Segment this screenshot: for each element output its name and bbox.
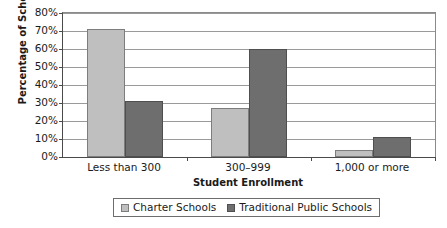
legend-swatch-icon bbox=[121, 204, 129, 212]
bar bbox=[87, 29, 125, 157]
y-axis-tick-label: 0% bbox=[22, 151, 58, 161]
y-axis-tick-label: 30% bbox=[22, 97, 58, 107]
chart-legend: Charter SchoolsTraditional Public School… bbox=[113, 198, 380, 217]
y-axis-tick bbox=[59, 31, 63, 32]
x-axis-tick-labels: Less than 300300–9991,000 or more bbox=[62, 161, 434, 177]
bar bbox=[125, 101, 163, 157]
x-axis-tick-label: 300–999 bbox=[225, 161, 270, 173]
gridline bbox=[63, 13, 435, 14]
plot-area bbox=[62, 12, 436, 158]
bar bbox=[373, 137, 411, 157]
y-axis-tick-labels: 0%10%20%30%40%50%60%70%80% bbox=[22, 0, 58, 170]
y-axis-tick bbox=[59, 13, 63, 14]
bar-chart: Percentage of Schools 0%10%20%30%40%50%6… bbox=[0, 0, 447, 228]
y-axis-tick-label: 10% bbox=[22, 133, 58, 143]
legend-item: Charter Schools bbox=[121, 202, 216, 213]
bar bbox=[211, 108, 249, 157]
legend-item: Traditional Public Schools bbox=[227, 202, 372, 213]
x-axis-title: Student Enrollment bbox=[62, 177, 434, 188]
y-axis-tick bbox=[59, 85, 63, 86]
x-axis-tick bbox=[435, 157, 436, 161]
y-axis-tick-label: 50% bbox=[22, 61, 58, 71]
y-axis-tick-label: 80% bbox=[22, 7, 58, 17]
bar bbox=[335, 150, 373, 157]
y-axis-tick-label: 40% bbox=[22, 79, 58, 89]
y-axis-tick bbox=[59, 103, 63, 104]
y-axis-tick bbox=[59, 49, 63, 50]
x-axis-tick-label: Less than 300 bbox=[87, 161, 161, 173]
y-axis-tick-label: 70% bbox=[22, 25, 58, 35]
y-axis-tick bbox=[59, 157, 63, 158]
legend-label: Charter Schools bbox=[133, 202, 216, 213]
y-axis-tick bbox=[59, 139, 63, 140]
bar bbox=[249, 49, 287, 157]
y-axis-tick-label: 20% bbox=[22, 115, 58, 125]
legend-label: Traditional Public Schools bbox=[239, 202, 372, 213]
y-axis-tick-label: 60% bbox=[22, 43, 58, 53]
legend-swatch-icon bbox=[227, 204, 235, 212]
x-axis-tick-label: 1,000 or more bbox=[335, 161, 410, 173]
y-axis-tick bbox=[59, 67, 63, 68]
y-axis-tick bbox=[59, 121, 63, 122]
